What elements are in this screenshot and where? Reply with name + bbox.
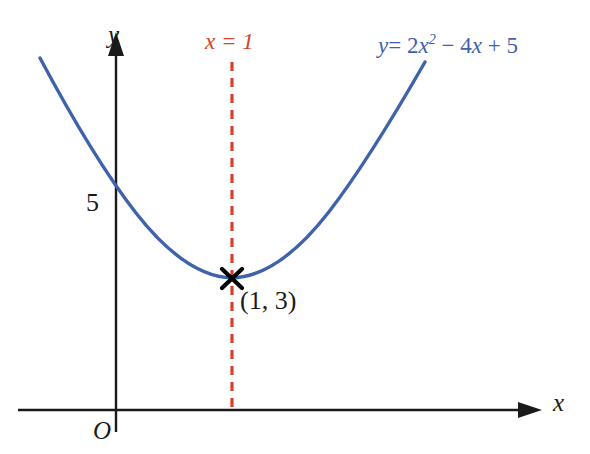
vertex-coordinate-label: (1, 3) xyxy=(240,288,296,314)
equation-x-second: x xyxy=(472,33,482,58)
equation-tail: + 5 xyxy=(488,33,518,58)
equation-middle: − 4 xyxy=(442,33,472,58)
y-axis-label: y xyxy=(108,22,119,47)
axis-of-symmetry-label-text: x = 1 xyxy=(205,29,254,54)
origin-label: O xyxy=(93,418,111,443)
equation-exponent: 2 xyxy=(429,31,436,47)
x-axis xyxy=(18,402,542,418)
y-axis xyxy=(108,32,124,432)
curve-equation-label: y= 2x2 − 4x + 5 xyxy=(378,32,518,57)
coordinate-plane-svg xyxy=(0,0,590,454)
axis-of-symmetry-label: x = 1 xyxy=(205,30,254,53)
x-axis-label: x xyxy=(553,390,564,415)
equation-eq: = 2 xyxy=(388,33,418,58)
equation-x-first: x xyxy=(418,33,428,58)
y-intercept-tick-label: 5 xyxy=(86,190,99,216)
equation-y: y xyxy=(378,33,388,58)
graph-figure: y x O 5 (1, 3) x = 1 y= 2x2 − 4x + 5 xyxy=(0,0,590,454)
